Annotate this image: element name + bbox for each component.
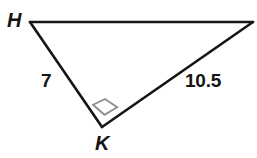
edge-k-j-line [102,22,253,127]
vertex-label-h: H [7,10,21,30]
right-angle-marker-icon [93,99,117,115]
triangle-figure: H K 7 10.5 [0,0,257,158]
side-length-label-kj: 10.5 [185,71,221,90]
vertex-label-k: K [95,133,109,153]
side-length-label-hk: 7 [41,71,51,90]
